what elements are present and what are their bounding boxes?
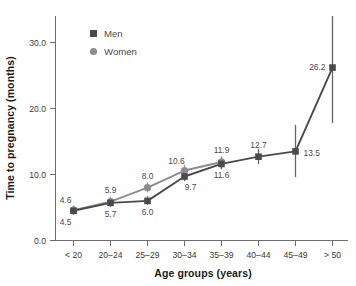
x-tick-label-0: < 20 — [65, 250, 82, 260]
legend-label-women: Women — [104, 46, 137, 57]
value-label-men-1: 5.7 — [105, 209, 117, 219]
x-tick-label-1: 20–24 — [99, 250, 123, 260]
value-label-men-7: 26.2 — [309, 62, 326, 72]
y-tick-label-0: 0.0 — [34, 236, 46, 246]
x-tick-label-2: 25–29 — [136, 250, 160, 260]
value-label-men-2: 6.0 — [142, 207, 154, 217]
men-marker — [144, 198, 151, 205]
value-label-men-5: 12.7 — [250, 140, 267, 150]
men-marker — [181, 173, 188, 180]
time-to-pregnancy-line-chart: 30.0 20.0 10.0 0.0 Time to pregnancy (mo… — [0, 0, 356, 286]
value-label-women-3: 10.6 — [168, 156, 185, 166]
x-axis-ticks — [74, 241, 333, 247]
men-marker — [329, 64, 336, 71]
men-marker — [218, 161, 225, 168]
x-tick-label-6: 45–49 — [284, 250, 308, 260]
y-axis-tick-labels: 30.0 20.0 10.0 0.0 — [29, 38, 46, 246]
men-marker — [70, 208, 77, 215]
axis-lines — [56, 16, 349, 241]
men-marker — [292, 148, 299, 155]
x-tick-label-5: 40–44 — [247, 250, 271, 260]
y-tick-label-10: 10.0 — [29, 170, 46, 180]
legend-marker-men-square-icon — [90, 30, 97, 37]
x-tick-label-3: 30–34 — [173, 250, 197, 260]
data-value-labels: 4.64.55.95.78.06.010.69.711.911.612.713.… — [60, 62, 326, 227]
women-marker — [181, 167, 188, 174]
chart-legend: Men Women — [90, 28, 137, 57]
y-tick-label-30: 30.0 — [29, 38, 46, 48]
legend-label-men: Men — [104, 28, 123, 39]
value-label-men-0: 4.5 — [60, 217, 72, 227]
value-label-men-4: 11.6 — [214, 170, 230, 180]
value-label-men-6: 13.5 — [304, 148, 321, 158]
chart-figure: 30.0 20.0 10.0 0.0 Time to pregnancy (mo… — [0, 0, 356, 286]
x-axis-title: Age groups (years) — [154, 267, 252, 279]
value-label-men-3: 9.7 — [185, 182, 197, 192]
value-label-women-4: 11.9 — [214, 145, 230, 155]
men-marker — [255, 153, 262, 160]
x-axis-tick-labels: < 20 20–24 25–29 30–34 35–39 40–44 45–49… — [65, 250, 341, 260]
value-label-women-0: 4.6 — [60, 195, 72, 205]
x-tick-label-7: > 50 — [324, 250, 341, 260]
value-label-women-2: 8.0 — [142, 171, 154, 181]
y-axis-title: Time to pregnancy (months) — [4, 56, 16, 200]
women-marker — [144, 184, 151, 191]
y-axis-ticks — [50, 43, 56, 241]
legend-marker-women-circle-icon — [90, 48, 97, 55]
x-tick-label-4: 35–39 — [210, 250, 234, 260]
value-label-women-1: 5.9 — [105, 185, 117, 195]
men-marker — [107, 200, 114, 207]
y-tick-label-20: 20.0 — [29, 104, 46, 114]
